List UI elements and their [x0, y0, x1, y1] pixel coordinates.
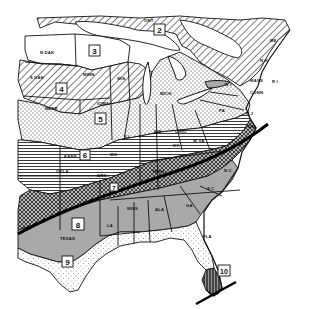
label-nebr: NEBR [45, 106, 58, 111]
label-nj: N J [246, 111, 254, 116]
label-ont: ONT [144, 18, 154, 23]
label-minn: MINN [83, 72, 95, 77]
label-sc: S C [207, 186, 215, 191]
zone-4-marker: 4 [56, 83, 67, 94]
label-fla: FLA [203, 234, 212, 239]
label-pa: PA [219, 108, 225, 113]
label-n-dak: N DAK [40, 50, 54, 55]
label-me: ME [270, 38, 277, 43]
svg-text:10: 10 [220, 268, 228, 275]
zone-map: 2 3 4 5 6 7 8 9 10 ONT N DAK S DAK MINN … [0, 0, 313, 309]
label-ill: ILL [124, 134, 131, 139]
label-nc: N C [224, 168, 232, 173]
label-conn: CONN [250, 90, 263, 95]
label-wva: W VA [193, 138, 204, 143]
label-ny: N Y [225, 82, 233, 87]
label-kans: KANS [64, 154, 77, 159]
zone-7-marker: 7 [110, 183, 118, 191]
label-ala: ALA [155, 207, 164, 212]
zone-6-marker: 6 [80, 150, 90, 160]
svg-text:3: 3 [92, 47, 97, 56]
label-okla: OKLA [56, 169, 69, 174]
label-ark: ARK [97, 173, 107, 178]
label-iowa: IOWA [97, 101, 109, 106]
label-ri: R I [272, 79, 278, 84]
label-mich: MICH [160, 91, 172, 96]
zone-8-marker: 8 [72, 218, 84, 230]
label-ky: KY [173, 143, 179, 148]
label-la: LA [107, 223, 113, 228]
zone-10-marker: 10 [218, 265, 230, 276]
label-ga: GA [186, 203, 193, 208]
svg-text:2: 2 [157, 26, 162, 35]
svg-text:9: 9 [65, 258, 70, 267]
svg-text:8: 8 [76, 221, 81, 230]
label-tenn: TENN [152, 169, 164, 174]
zone-9-marker: 9 [62, 256, 73, 267]
label-miss: MISS [127, 206, 138, 211]
label-ohio: OHIO [175, 129, 187, 134]
label-nh: N H [260, 58, 268, 63]
label-ind: IND [154, 129, 162, 134]
label-mo: MO [110, 152, 118, 157]
svg-text:6: 6 [83, 151, 88, 160]
label-del: DEL [248, 124, 257, 129]
label-mass: MASS [250, 78, 263, 83]
svg-text:5: 5 [98, 115, 103, 124]
label-texas: TEXAS [60, 236, 75, 241]
zone-3-marker: 3 [89, 45, 100, 56]
zone-5-marker: 5 [95, 113, 106, 124]
svg-text:4: 4 [59, 85, 64, 94]
zone-2-marker: 2 [154, 24, 165, 35]
label-s-dak: S DAK [30, 75, 44, 80]
label-wis: WIS [117, 76, 126, 81]
